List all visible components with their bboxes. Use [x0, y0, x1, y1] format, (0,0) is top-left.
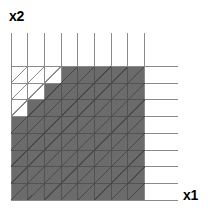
y-axis-label: x2 [9, 9, 24, 23]
horizontal-overhang-lines [145, 67, 178, 201]
mesh-diagram [0, 0, 208, 213]
vertical-overhang-lines [11, 33, 145, 67]
figure-root: x2 x1 [0, 0, 208, 213]
x-axis-label: x1 [183, 188, 198, 202]
